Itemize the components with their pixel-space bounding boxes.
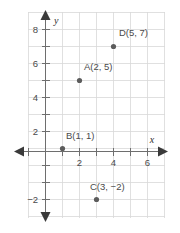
point-label-b: B(1, 1) (66, 130, 95, 141)
coordinate-plane-svg: 2 4 6 8 6 4 2 −2 y x D(5, 7) A(2, 5) B(1… (0, 0, 180, 233)
coordinate-plane-figure: 2 4 6 8 6 4 2 −2 y x D(5, 7) A(2, 5) B(1… (0, 0, 180, 233)
y-tick-label-2: 2 (33, 126, 38, 137)
y-tick-label-8: 8 (33, 24, 38, 35)
data-point-d (111, 44, 116, 49)
y-tick-label-6: 6 (33, 58, 38, 69)
y-axis-label: y (53, 15, 59, 26)
x-tick-label-2: 2 (77, 157, 82, 168)
data-point-a (77, 78, 82, 83)
point-label-a: A(2, 5) (84, 61, 113, 72)
data-point-c (94, 197, 99, 202)
point-label-c: C(3, −2) (90, 181, 125, 192)
y-tick-label-neg2: −2 (27, 194, 38, 205)
point-label-d: D(5, 7) (119, 27, 148, 38)
x-axis-label: x (149, 134, 155, 145)
data-point-b (60, 146, 65, 151)
x-tick-label-6: 6 (145, 157, 150, 168)
y-tick-label-4: 4 (33, 92, 38, 103)
x-tick-label-4: 4 (111, 157, 116, 168)
